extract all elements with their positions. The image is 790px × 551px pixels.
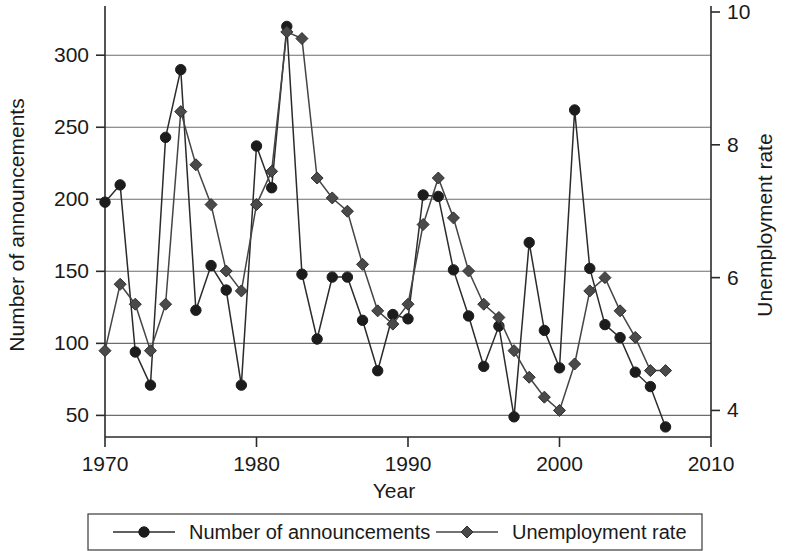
data-point-circle [463,311,473,321]
y2-axis-tick-labels: 46810 [727,0,750,421]
series-polyline [105,26,666,427]
data-point-circle [509,412,519,422]
data-point-diamond [357,258,369,270]
data-point-circle [600,319,610,329]
data-point-diamond [190,159,202,171]
data-point-circle [251,141,261,151]
data-point-diamond [644,365,656,377]
data-point-circle [403,314,413,324]
data-point-diamond [432,172,444,184]
y-tick-label: 250 [54,115,89,138]
data-point-circle [266,183,276,193]
tick-marks [96,12,720,447]
y-tick-label: 50 [66,403,89,426]
data-point-diamond [175,106,187,118]
data-point-circle [160,132,170,142]
data-point-diamond [205,199,217,211]
data-point-circle [479,361,489,371]
y2-tick-label: 4 [727,398,739,421]
data-point-diamond [311,172,323,184]
data-point-circle [115,180,125,190]
data-point-circle [418,190,428,200]
dual-axis-line-chart: 50100150200250300 46810 1970198019902000… [0,0,790,551]
data-point-circle [585,263,595,273]
data-point-circle [236,380,246,390]
data-point-circle [448,265,458,275]
data-point-circle [615,332,625,342]
data-point-diamond [160,298,172,310]
y-tick-label: 300 [54,43,89,66]
gridlines [105,55,711,415]
data-point-diamond [660,365,672,377]
data-point-circle [145,380,155,390]
data-point-diamond [629,331,641,343]
data-point-circle [524,237,534,247]
data-point-diamond [569,358,581,370]
x-tick-label: 1990 [385,452,432,475]
data-point-diamond [99,345,111,357]
data-point-diamond [614,305,626,317]
y-axis-tick-labels: 50100150200250300 [54,43,89,426]
data-point-circle [327,272,337,282]
data-point-circle [206,260,216,270]
data-point-circle [130,347,140,357]
chart-legend: Number of announcementsUnemployment rate [88,514,702,550]
data-point-circle [660,422,670,432]
data-point-circle [373,366,383,376]
x-axis-title: Year [373,479,415,502]
data-point-diamond [508,345,520,357]
x-tick-label: 2010 [688,452,735,475]
data-point-diamond [114,278,126,290]
x-tick-label: 1970 [82,452,129,475]
legend-label: Number of announcements [189,521,430,543]
chart-container: 50100150200250300 46810 1970198019902000… [0,0,790,551]
data-point-diamond [235,285,247,297]
data-point-circle [630,367,640,377]
data-point-diamond [523,371,535,383]
x-tick-label: 1980 [233,452,280,475]
data-point-circle [357,315,367,325]
y-tick-label: 100 [54,331,89,354]
axis-titles: Number of announcements Unemployment rat… [5,98,776,502]
data-point-circle [569,105,579,115]
data-point-diamond [144,345,156,357]
data-point-circle [100,197,110,207]
y2-axis-title: Unemployment rate [753,133,776,316]
data-point-diamond [463,265,475,277]
data-point-diamond [402,298,414,310]
series-polyline [105,32,666,411]
y-axis-title: Number of announcements [5,98,28,351]
y2-tick-label: 8 [727,133,739,156]
data-point-circle [176,64,186,74]
data-point-circle [221,285,231,295]
data-point-diamond [296,33,308,45]
axes [105,6,711,437]
legend-marker-circle [139,527,149,537]
legend-label: Unemployment rate [512,521,687,543]
data-point-diamond [447,212,459,224]
y-tick-label: 200 [54,187,89,210]
x-tick-label: 2000 [536,452,583,475]
data-point-circle [433,191,443,201]
data-point-circle [539,325,549,335]
data-point-circle [342,272,352,282]
data-point-circle [297,269,307,279]
y2-tick-label: 10 [727,0,750,23]
data-point-circle [645,381,655,391]
series-announcements [100,21,671,432]
data-point-diamond [220,265,232,277]
data-point-circle [191,305,201,315]
y2-tick-label: 6 [727,266,739,289]
y-tick-label: 150 [54,259,89,282]
data-point-circle [554,363,564,373]
x-axis-tick-labels: 19701980199020002010 [82,452,735,475]
data-series [99,21,672,432]
data-point-circle [312,334,322,344]
